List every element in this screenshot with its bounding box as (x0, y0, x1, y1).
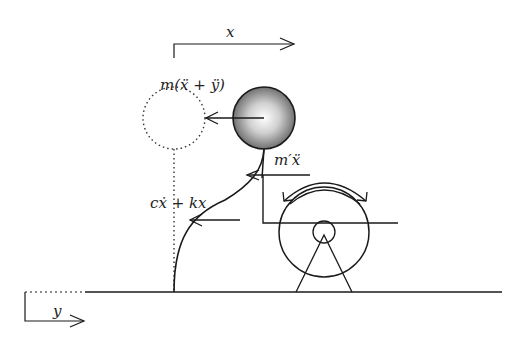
exciter-force-arrow (247, 170, 310, 180)
y-axis-label: y (53, 304, 61, 319)
x-axis-arrow (174, 38, 294, 58)
spring-damper-force-arrow (190, 214, 240, 226)
exciter-force-label: m′ẍ (274, 153, 300, 168)
ball-stem (262, 149, 264, 178)
spring-damper-force-label: cẋ + kx (150, 196, 207, 211)
reference-position (143, 87, 205, 292)
mechanical-diagram (0, 0, 529, 344)
x-axis-label: x (226, 25, 234, 40)
inertia-force-label: m(ẍ + ÿ) (160, 78, 225, 93)
wheel-hub (313, 221, 335, 243)
rotation-arrow-icon (283, 183, 367, 204)
